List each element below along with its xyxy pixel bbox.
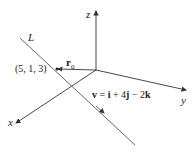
x-axis: [16, 70, 96, 123]
point-dot: [56, 68, 59, 71]
k-symbol: k: [145, 89, 151, 100]
y-axis: [96, 70, 186, 90]
r0-vector: [58, 69, 96, 70]
diagram-canvas: [0, 0, 196, 160]
x-axis-label: x: [8, 117, 13, 128]
r0-subscript: 0: [71, 63, 75, 71]
minus-term: − 2: [129, 89, 145, 100]
y-axis-label: y: [181, 95, 186, 106]
equals: =: [97, 89, 108, 100]
line-label: L: [28, 32, 34, 43]
direction-vector-label: v = i + 4j − 2k: [92, 90, 151, 100]
z-axis-label: z: [86, 9, 90, 20]
plus-term: + 4: [110, 89, 126, 100]
point-label: (5, 1, 3): [15, 64, 47, 74]
r0-label: r0: [66, 57, 74, 71]
